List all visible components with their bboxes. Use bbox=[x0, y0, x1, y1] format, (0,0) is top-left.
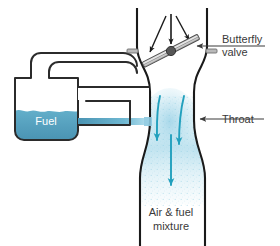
valve-pivot bbox=[166, 46, 175, 55]
fuel-jet-nozzle bbox=[144, 117, 152, 126]
carburetor-diagram: Butterfly valve Throat Fuel Air & fuel m… bbox=[0, 0, 280, 246]
throat-label: Throat bbox=[222, 113, 254, 125]
valve-shaft-stub-right bbox=[206, 49, 217, 53]
air-fuel-mixture-label-line2: mixture bbox=[153, 220, 189, 232]
jet-fuel-stream bbox=[78, 118, 144, 125]
carburetor-svg: Butterfly valve Throat Fuel Air & fuel m… bbox=[0, 0, 280, 246]
air-fuel-mixture-label-line1: Air & fuel bbox=[149, 206, 194, 218]
butterfly-valve-label-line2: valve bbox=[222, 46, 248, 58]
butterfly-valve-label-line1: Butterfly bbox=[222, 33, 263, 45]
valve-shaft-stub-left bbox=[127, 49, 138, 53]
fuel-label: Fuel bbox=[35, 115, 56, 127]
